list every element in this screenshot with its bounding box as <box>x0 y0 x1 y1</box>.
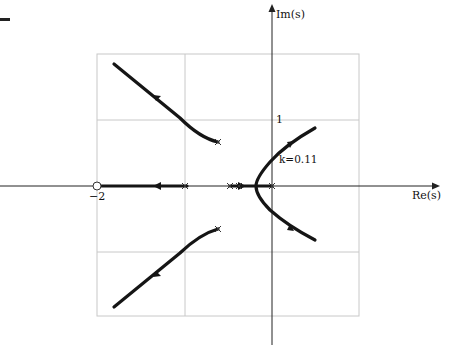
root-locus-plot <box>0 0 452 358</box>
arrow-icon <box>153 182 161 190</box>
zero-marker <box>93 182 101 190</box>
gain-annotation: k=0.11 <box>279 153 318 165</box>
im-axis-label: Im(s) <box>276 8 305 21</box>
tick-label-x-neg2: −2 <box>89 190 105 203</box>
tick-label-y-1: 1 <box>276 113 283 126</box>
axes <box>0 8 436 345</box>
re-axis-label: Re(s) <box>412 189 441 202</box>
im-axis-arrow-icon <box>269 4 276 12</box>
